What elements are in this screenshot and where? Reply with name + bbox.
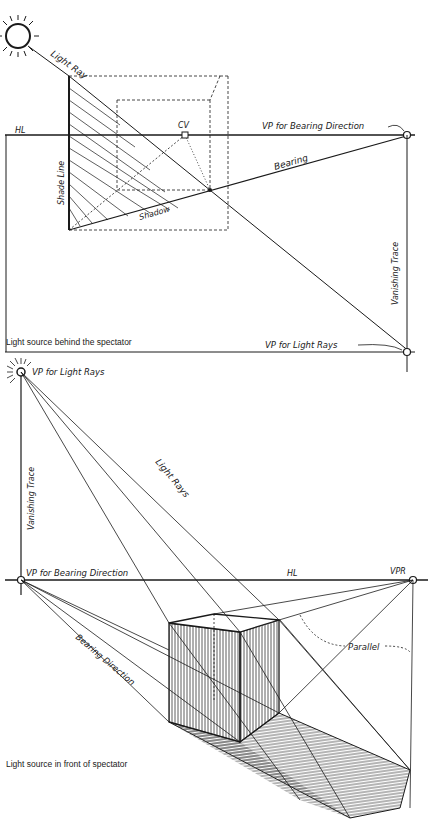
perspective-shadow-diagrams: Light Ray HL Shade Line Bearing Shadow [0,0,429,832]
vp-bearing-label: VP for Bearing Direction [26,568,128,578]
top-diagram: Light Ray HL Shade Line Bearing Shadow [0,15,415,372]
top-caption: Light source behind the spectator [6,337,132,347]
bottom-diagram: VP for Light Rays Vanishing Trace VP for… [5,358,428,818]
light-rays-label: Light Rays [153,457,191,500]
shade-line-label: Shade Line [57,161,66,205]
cv-label: CV [178,121,190,130]
cv-marker [182,132,188,138]
bearing-direction-label: Bearing Direction [74,632,137,687]
vp-light-rays-label: VP for Light Rays [32,367,105,377]
hl-label: HL [15,126,25,135]
sun-icon [0,15,39,57]
parallel-label: Parallel [348,642,380,652]
shadow-label: Shadow [138,204,171,221]
vp-light-rays-marker [404,349,411,356]
bottom-caption: Light source in front of spectator [6,759,128,769]
vp-light-rays-label: VP for Light Rays [265,340,338,350]
vp-bearing-label: VP for Bearing Direction [262,121,364,131]
hl-label: HL [287,569,297,578]
vanishing-trace-label: Vanishing Trace [27,467,36,530]
vpr-label: VPR [390,567,406,576]
vanishing-trace-label: Vanishing Trace [391,242,400,305]
bearing-label: Bearing [273,153,310,172]
